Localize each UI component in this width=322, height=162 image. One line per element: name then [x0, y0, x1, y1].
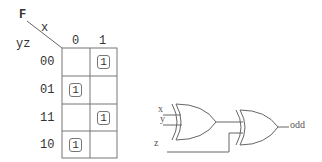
input-label-z: z [154, 138, 158, 148]
circuit-wires-and-gates [0, 0, 322, 162]
xor-gate-1 [172, 104, 216, 140]
output-label-odd: odd [290, 120, 305, 130]
input-label-y: y [160, 114, 165, 124]
xor-gate-2 [236, 110, 278, 145]
